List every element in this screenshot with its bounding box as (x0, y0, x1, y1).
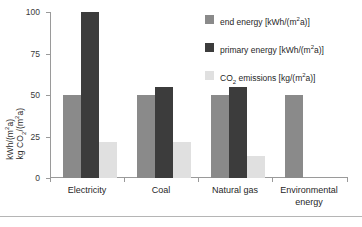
x-axis-separator (272, 178, 273, 182)
x-axis-separator (198, 178, 199, 182)
x-axis-label-environmental-energy: Environmentalenergy (268, 184, 350, 208)
legend-swatch-primary-energy (205, 43, 214, 52)
bar-co2-emissions (173, 142, 191, 179)
x-axis-separator (50, 178, 51, 182)
legend-label-end-energy: end energy [kWh/(m2a)] (220, 14, 310, 27)
legend-swatch-end-energy (205, 15, 214, 24)
y-axis-title-line-1: kWh/(m2a) (4, 119, 15, 160)
bar-primary-energy (81, 12, 99, 178)
y-axis-title: kWh/(m2a) kg CO2/(m2a) (2, 55, 36, 160)
legend-item-primary-energy: primary energy [kWh/(m2a)] (205, 42, 360, 55)
bar-group-coal: Coal (124, 12, 198, 178)
legend: end energy [kWh/(m2a)] primary energy [k… (205, 14, 360, 101)
legend-swatch-co2-emissions (205, 71, 214, 80)
bar-end-energy (285, 95, 303, 178)
x-axis-label-natural-gas: Natural gas (198, 184, 272, 196)
y-axis-title-line-2: kg CO2/(m2a) (14, 108, 27, 160)
legend-label-co2-emissions: CO2 emissions [kg/(m2a)] (220, 70, 315, 87)
bar-end-energy (63, 95, 81, 178)
legend-item-end-energy: end energy [kWh/(m2a)] (205, 14, 360, 27)
x-axis-label-electricity: Electricity (50, 184, 124, 196)
x-axis-separator (124, 178, 125, 182)
bar-group-electricity: Electricity (50, 12, 124, 178)
bar-end-energy (137, 95, 155, 178)
bar-co2-emissions (247, 156, 265, 178)
legend-label-primary-energy: primary energy [kWh/(m2a)] (220, 42, 324, 55)
bar-end-energy (211, 95, 229, 178)
legend-item-co2-emissions: CO2 emissions [kg/(m2a)] (205, 70, 360, 87)
x-axis-label-coal: Coal (124, 184, 198, 196)
bar-co2-emissions (99, 142, 117, 179)
footer-divider (0, 216, 362, 217)
x-axis-separator (347, 178, 348, 182)
bar-primary-energy (155, 87, 173, 178)
chart-figure: kWh/(m2a) kg CO2/(m2a) 0 25 50 75 100 El… (0, 0, 362, 227)
